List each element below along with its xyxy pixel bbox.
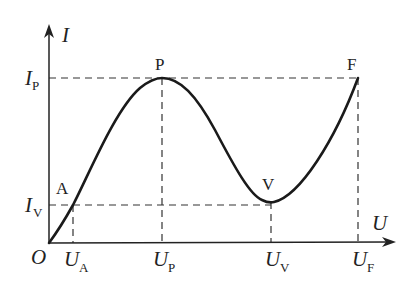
svg-text:F: F	[367, 260, 374, 275]
iv-curve	[49, 78, 358, 243]
point-a-label: A	[56, 179, 69, 198]
x-axis-label: U	[372, 211, 389, 235]
svg-text:I: I	[24, 193, 33, 217]
x-axis	[49, 242, 388, 243]
y-axis-label: I	[61, 23, 70, 47]
point-f-label: F	[347, 55, 356, 74]
svg-text:P: P	[168, 260, 175, 275]
uf-tick-label: U F	[352, 247, 374, 275]
iv-tick-label: I V	[24, 193, 43, 220]
origin-label: O	[31, 245, 46, 269]
ip-tick-label: I P	[24, 66, 39, 93]
point-v-label: V	[262, 175, 275, 194]
svg-text:P: P	[32, 78, 39, 93]
up-tick-label: U P	[153, 247, 175, 275]
svg-text:A: A	[79, 260, 89, 275]
svg-text:V: V	[33, 205, 43, 220]
iv-characteristic-diagram: I U O A P V F I P I V U A U P U V U F	[0, 0, 414, 284]
point-p-label: P	[155, 55, 164, 74]
svg-text:V: V	[280, 260, 290, 275]
ua-tick-label: U A	[64, 247, 89, 275]
uv-tick-label: U V	[265, 247, 290, 275]
